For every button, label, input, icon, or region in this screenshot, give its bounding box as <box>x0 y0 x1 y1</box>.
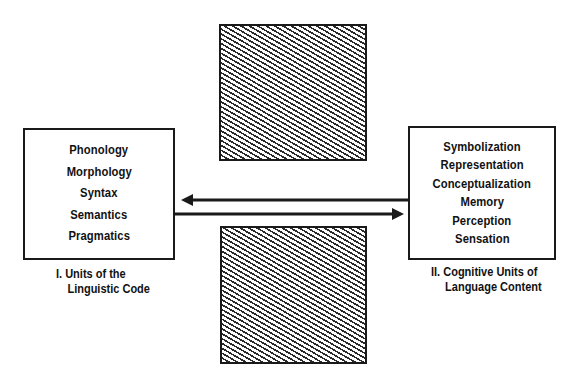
cognitive-units-box: Symbolization Representation Conceptuali… <box>408 126 556 260</box>
unit-item: Semantics <box>70 205 127 227</box>
hatched-block-bottom <box>220 226 367 364</box>
unit-item: Representation <box>440 156 523 175</box>
cognitive-units-caption: II. Cognitive Units of Language Content <box>431 265 542 295</box>
hatched-block-top <box>219 24 367 161</box>
caption-line-1: II. Cognitive Units of <box>431 265 537 279</box>
unit-item: Perception <box>452 212 511 231</box>
caption-line-1: I. Units of the <box>56 267 126 281</box>
cutoff-text-above <box>40 0 560 4</box>
arrow-left-icon <box>181 194 408 206</box>
unit-item: Syntax <box>80 183 117 205</box>
unit-item: Morphology <box>66 162 131 184</box>
caption-line-2: Language Content <box>431 280 542 295</box>
linguistic-code-caption: I. Units of the Linguistic Code <box>56 267 150 297</box>
linguistic-code-box: Phonology Morphology Syntax Semantics Pr… <box>23 128 175 260</box>
unit-item: Phonology <box>70 140 129 162</box>
unit-item: Memory <box>460 193 504 212</box>
unit-item: Sensation <box>455 230 510 249</box>
unit-item: Symbolization <box>443 138 520 157</box>
caption-line-2: Linguistic Code <box>56 282 150 297</box>
unit-item: Pragmatics <box>68 226 130 248</box>
arrow-right-icon <box>174 208 404 220</box>
unit-item: Conceptualization <box>433 175 531 194</box>
